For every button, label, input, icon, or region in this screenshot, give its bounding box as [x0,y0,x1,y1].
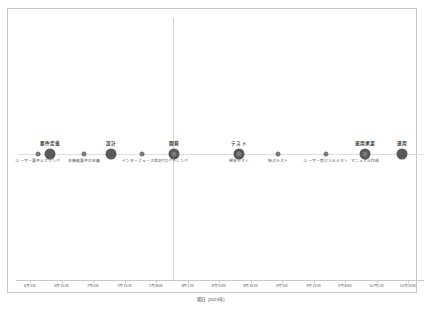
subtask-marker[interactable] [237,152,242,157]
milestone-label: 運用承認 [355,141,375,147]
x-axis-tick [156,280,157,283]
milestone-marker[interactable] [397,149,408,160]
subtask-label: 単体テスト [229,158,250,163]
subtask-marker[interactable] [276,152,281,157]
subtask-label: ユーザー要件ヒアリング [15,158,60,163]
subtask-marker[interactable] [36,152,41,157]
x-axis-tick-label: 6月15日 [54,284,68,289]
milestone-label: 開発 [169,141,179,147]
subtask-label: インターフェース設計 [122,158,163,163]
subtask-marker[interactable] [172,152,177,157]
milestone-label: 設計 [106,141,116,147]
subtask-marker[interactable] [324,152,329,157]
x-axis-tick [125,280,126,283]
subtask-marker[interactable] [82,152,87,157]
subtask-marker[interactable] [140,152,145,157]
x-axis-tick-label: 8月31日 [243,284,257,289]
x-axis-tick-label: 10月1日 [369,284,383,289]
x-axis-tick-label: 10月15日 [400,284,416,289]
x-axis-tick [188,280,189,283]
subtask-label: マニュアル作成 [351,158,380,163]
x-axis-tick [314,280,315,283]
subtask-label: 非機能要件の定義 [68,158,101,163]
x-axis-tick-label: 9月1日 [276,284,288,289]
milestone-label: 運用 [397,141,407,147]
x-axis-title: 期日（2023年） [8,297,416,303]
x-axis-tick-label: 9月30日 [338,284,352,289]
x-axis-tick-label: 9月15日 [306,284,320,289]
x-axis-tick-label: 8月1日 [181,284,193,289]
x-axis-tick [251,280,252,283]
subtask-label: 結合テスト [268,158,289,163]
x-axis-tick-label: 6月1日 [24,284,36,289]
x-axis-tick [345,280,346,283]
x-axis-tick-label: 7月15日 [117,284,131,289]
milestone-label: 要件定義 [40,141,60,147]
x-axis-tick [282,280,283,283]
x-axis-tick-label: 7月1日 [87,284,99,289]
chart-frame: 要件定義設計開発テスト運用承認運用 ユーザー要件ヒアリング非機能要件の定義インタ… [7,8,417,293]
milestone-marker[interactable] [106,149,117,160]
x-axis-tick [219,280,220,283]
subtask-label: ユーザー受け入れテスト [303,158,348,163]
x-axis-tick [408,280,409,283]
screenshot-root: 要件定義設計開発テスト運用承認運用 ユーザー要件ヒアリング非機能要件の定義インタ… [0,0,425,309]
x-axis-tick [62,280,63,283]
x-axis-tick [93,280,94,283]
x-axis-tick-label: 7月30日 [149,284,163,289]
subtask-marker[interactable] [363,152,368,157]
x-axis-tick-label: 8月15日 [212,284,226,289]
x-axis-tick [377,280,378,283]
milestone-label: テスト [231,141,246,147]
x-axis-line [16,280,424,281]
subtask-label: プログラミング [160,158,189,163]
x-axis-tick [30,280,31,283]
